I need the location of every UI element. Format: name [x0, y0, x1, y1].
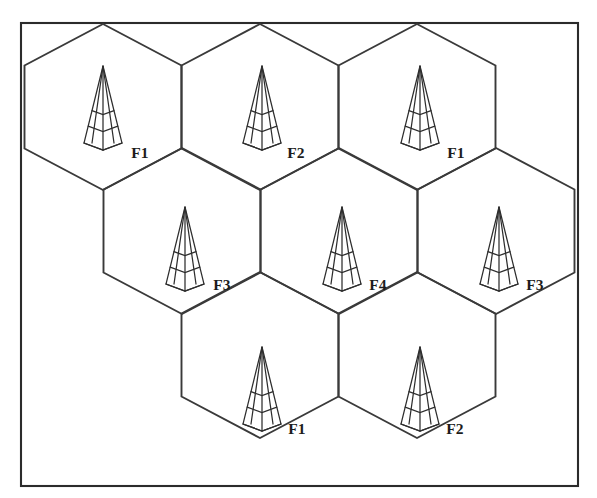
cell-labels-layer: F1F2F1F3F4F3F1F2: [131, 144, 544, 437]
transmitter-tower-icon: [166, 207, 204, 291]
cell-frequency-label-1: F1: [131, 144, 149, 161]
frequency-reuse-figure: F1F2F1F3F4F3F1F2: [0, 0, 597, 498]
transmitter-tower-icon: [401, 347, 439, 431]
hexagon-cell-8[interactable]: [339, 272, 496, 438]
transmitter-tower-icon: [323, 207, 361, 291]
cell-frequency-label-5: F4: [369, 276, 387, 293]
tower-icons-layer: [84, 66, 518, 431]
cell-frequency-label-7: F1: [288, 420, 306, 437]
cell-frequency-label-8: F2: [446, 420, 464, 437]
transmitter-tower-icon: [243, 66, 281, 150]
transmitter-tower-icon: [480, 207, 518, 291]
transmitter-tower-icon: [401, 66, 439, 150]
cell-frequency-label-6: F3: [526, 276, 544, 293]
cell-frequency-label-3: F1: [447, 144, 465, 161]
hexagon-cells-layer: [25, 24, 575, 438]
hexagon-cell-diagram: F1F2F1F3F4F3F1F2: [0, 0, 597, 498]
transmitter-tower-icon: [84, 66, 122, 150]
transmitter-tower-icon: [243, 347, 281, 431]
cell-frequency-label-4: F3: [213, 276, 231, 293]
hexagon-cell-2[interactable]: [182, 24, 339, 190]
cell-frequency-label-2: F2: [287, 144, 305, 161]
hexagon-cell-3[interactable]: [339, 24, 496, 190]
